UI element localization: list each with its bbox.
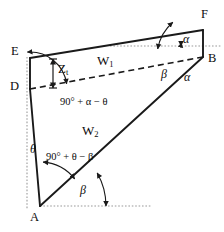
angle-label-alpha-top: α (183, 33, 189, 45)
arc-a-angle (43, 162, 75, 179)
diagram-canvas (0, 0, 224, 232)
angle-label-beta-a: β (80, 184, 86, 196)
angle-expression-d: 90° + α − θ (60, 97, 108, 108)
segment-label-w2: W2 (82, 124, 99, 137)
segment-label-w1: W1 (97, 54, 114, 67)
edge-D-B-dashed (30, 57, 203, 89)
angle-label-beta-b: β (161, 68, 167, 80)
arc-beta-a (97, 173, 106, 206)
edge-B-A (40, 57, 203, 206)
angle-label-alpha-b: α (184, 71, 190, 83)
segment-label-zt: Zt (58, 62, 68, 75)
vertex-label-D: D (10, 80, 19, 93)
edge-E-F (30, 30, 203, 58)
geometry-diagram: FEBDAW1W2Ztαβαθβ90° + α − θ90° + θ − β (0, 0, 224, 232)
vertex-label-B: B (208, 52, 216, 65)
angle-label-theta-left: θ (30, 143, 36, 155)
solid-edges (30, 30, 203, 206)
vertex-label-A: A (30, 211, 39, 224)
dimension-arrows (49, 59, 57, 88)
vertex-label-F: F (201, 8, 208, 21)
vertex-label-E: E (11, 45, 19, 58)
angle-expression-a: 90° + θ − β (46, 152, 93, 163)
dashed-edges (30, 57, 203, 89)
angle-arcs (27, 22, 181, 206)
